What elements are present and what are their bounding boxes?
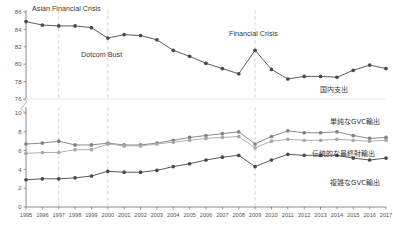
- bottom-point-2-2006: [204, 158, 208, 162]
- bottom-point-1-2008: [237, 135, 241, 139]
- x-tick-label-1996: 1996: [36, 212, 48, 218]
- bottom-point-0-1996: [41, 141, 45, 145]
- bottom-point-1-1997: [57, 151, 61, 155]
- bottom-point-2-2002: [139, 170, 143, 174]
- x-axis: 1995199619971998199920002001200220032004…: [20, 207, 392, 218]
- bottom-point-0-2015: [351, 134, 355, 138]
- x-tick-label-2008: 2008: [233, 212, 245, 218]
- top-y-tick-label-82: 82: [15, 44, 22, 50]
- top-point-0-2002: [139, 34, 143, 38]
- bottom-y-tick-label-4: 4: [18, 167, 22, 173]
- bottom-point-1-2012: [302, 138, 306, 142]
- bottom-point-2-2011: [286, 153, 290, 157]
- top-point-0-2011: [286, 77, 290, 81]
- top-y-tick-label-78: 78: [15, 79, 22, 85]
- top-y-tick-label-86: 86: [15, 9, 22, 15]
- x-tick-label-1998: 1998: [69, 212, 81, 218]
- bottom-point-2-1997: [57, 177, 61, 181]
- bottom-point-0-2011: [286, 129, 290, 133]
- x-tick-label-2003: 2003: [151, 212, 163, 218]
- bottom-point-1-1995: [24, 152, 28, 156]
- bottom-y-tick-label-0: 0: [18, 204, 22, 210]
- x-tick-label-2001: 2001: [118, 212, 130, 218]
- x-tick-label-2017: 2017: [380, 212, 392, 218]
- top-point-0-2012: [302, 75, 306, 79]
- top-point-0-2010: [270, 68, 274, 72]
- top-point-0-2015: [351, 68, 355, 72]
- bottom-point-1-2006: [204, 137, 208, 141]
- top-point-0-1998: [73, 24, 77, 28]
- bottom-point-2-1996: [41, 177, 45, 181]
- bottom-point-0-1995: [24, 142, 28, 146]
- bottom-point-2-2009: [253, 165, 257, 169]
- bottom-point-1-2002: [139, 144, 143, 148]
- bottom-point-2-2016: [368, 158, 372, 162]
- x-tick-label-1997: 1997: [53, 212, 65, 218]
- bottom-y-tick-label-2: 2: [18, 185, 22, 191]
- x-tick-label-2004: 2004: [167, 212, 179, 218]
- bottom-point-1-2010: [270, 139, 274, 143]
- x-tick-label-1999: 1999: [85, 212, 97, 218]
- bottom-point-1-2007: [221, 136, 225, 140]
- bottom-point-2-2000: [106, 169, 110, 173]
- x-tick-label-2015: 2015: [347, 212, 359, 218]
- top-series-line-0: [26, 22, 386, 79]
- top-point-0-2006: [204, 61, 208, 65]
- bottom-point-0-2013: [319, 131, 323, 135]
- bottom-point-1-2013: [319, 138, 323, 142]
- bottom-point-1-2001: [122, 144, 126, 148]
- top-point-0-2003: [155, 38, 159, 42]
- bottom-point-2-1998: [73, 176, 77, 180]
- bottom-point-2-2003: [155, 168, 159, 172]
- top-point-0-2017: [384, 67, 388, 71]
- bottom-point-1-2000: [106, 142, 110, 146]
- bottom-point-2-1995: [24, 178, 28, 182]
- bottom-point-0-2010: [270, 135, 274, 139]
- annotation-dotcom-bust: Dotcom Bust: [81, 50, 122, 59]
- bottom-point-1-1998: [73, 148, 77, 152]
- bottom-point-1-2016: [368, 139, 372, 143]
- bottom-point-0-1997: [57, 139, 61, 143]
- x-tick-label-2002: 2002: [134, 212, 146, 218]
- top-point-0-2013: [319, 75, 323, 79]
- bottom-point-2-2005: [188, 162, 192, 166]
- x-tick-label-2013: 2013: [314, 212, 326, 218]
- series-label-domestic-expenditure: 国内支出: [320, 85, 348, 94]
- bottom-point-0-1999: [90, 143, 94, 147]
- annotation-asian-financial-crisis: Asian Financial Crisis: [32, 4, 101, 13]
- annotation-financial-crisis: Financial Crisis: [229, 29, 278, 38]
- series-label-complex-gvc-exports: 複雑なGVC輸出: [330, 178, 380, 187]
- top-point-0-2016: [368, 63, 372, 67]
- series-label-traditional-final-goods-exports: 伝統的な最終財輸出: [312, 149, 375, 158]
- bottom-point-1-2009: [253, 146, 257, 150]
- top-point-0-2007: [221, 67, 225, 71]
- x-tick-label-2005: 2005: [183, 212, 195, 218]
- top-y-tick-label-80: 80: [15, 61, 22, 67]
- x-tick-label-2000: 2000: [102, 212, 114, 218]
- bottom-point-2-1999: [90, 174, 94, 178]
- two-panel-line-chart: 868482807876 1086420 1995199619971998199…: [0, 0, 393, 230]
- bottom-point-1-2011: [286, 137, 290, 141]
- bottom-point-1-2005: [188, 138, 192, 142]
- bottom-point-0-2009: [253, 142, 257, 146]
- top-point-0-2001: [122, 33, 126, 37]
- bottom-y-tick-label-6: 6: [18, 148, 22, 154]
- x-tick-label-1995: 1995: [20, 212, 32, 218]
- top-y-tick-label-76: 76: [15, 96, 22, 102]
- bottom-point-0-2012: [302, 131, 306, 135]
- bottom-point-2-2001: [122, 170, 126, 174]
- bottom-point-2-2017: [384, 156, 388, 160]
- top-point-0-2004: [171, 48, 175, 52]
- bottom-point-0-2008: [237, 130, 241, 134]
- x-tick-label-2012: 2012: [298, 212, 310, 218]
- bottom-point-1-2017: [384, 138, 388, 142]
- bottom-point-2-2007: [221, 155, 225, 159]
- bottom-point-1-1999: [90, 148, 94, 152]
- x-tick-label-2007: 2007: [216, 212, 228, 218]
- bottom-point-1-1996: [41, 151, 45, 155]
- top-y-tick-label-84: 84: [15, 27, 22, 33]
- bottom-point-2-2008: [237, 153, 241, 157]
- bottom-point-1-2003: [155, 142, 159, 146]
- x-tick-label-2016: 2016: [363, 212, 375, 218]
- top-point-0-1997: [57, 24, 61, 28]
